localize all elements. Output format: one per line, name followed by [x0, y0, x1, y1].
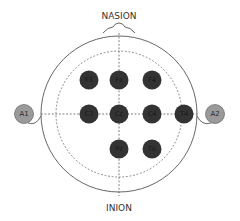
electrode-label: C3 — [85, 110, 94, 118]
electrode-Fz: Fz — [110, 71, 129, 90]
nasion-label: NASION — [101, 11, 136, 21]
electrode-Pz: Pz — [110, 140, 129, 159]
reference-label: A1 — [19, 110, 28, 118]
inion-label: INION — [106, 203, 132, 213]
electrode-label: Fz — [115, 76, 123, 84]
electrode-label: F3 — [85, 76, 93, 84]
reference-electrode-A1: A1 — [15, 105, 34, 124]
reference-label: A2 — [210, 110, 219, 118]
electrode-label: Pz — [115, 145, 123, 153]
electrode-T4: T4 — [175, 105, 194, 124]
electrode-C4: C4 — [143, 105, 162, 124]
electrode-label: T6 — [147, 145, 156, 153]
electrode-label: F4 — [148, 76, 156, 84]
electrode-F3: F3 — [80, 71, 99, 90]
electrode-C3: C3 — [80, 105, 99, 124]
electrode-Cz: Cz — [110, 105, 129, 124]
eeg-diagram: NASION F3 Fz F4 C3 Cz C4 T4 Pz — [0, 0, 240, 221]
electrode-T6: T6 — [143, 140, 162, 159]
electrode-label: Cz — [115, 110, 124, 118]
electrode-F4: F4 — [143, 71, 162, 90]
electrode-label: C4 — [148, 110, 157, 118]
nose-icon — [103, 23, 135, 33]
electrode-label: T4 — [179, 110, 188, 118]
reference-electrode-A2: A2 — [206, 105, 225, 124]
